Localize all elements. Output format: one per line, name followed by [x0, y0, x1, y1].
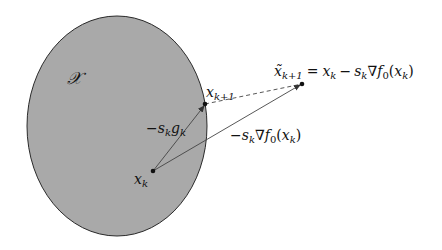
label-gradient-step: −sk∇f0(xk)	[230, 127, 301, 145]
point-xk1	[203, 102, 208, 107]
feasible-set-region	[27, 16, 207, 236]
label-xtilde-equation: x̃k+1=xk−sk∇f0(xk)	[274, 63, 414, 81]
point-xtilde	[300, 82, 305, 87]
point-xk	[151, 169, 156, 174]
projected-gradient-diagram: 𝒳 xk xk+1 −skgk −sk∇f0(xk) x̃k+1=xk−sk∇f…	[0, 0, 442, 250]
label-xk1: xk+1	[206, 84, 235, 102]
